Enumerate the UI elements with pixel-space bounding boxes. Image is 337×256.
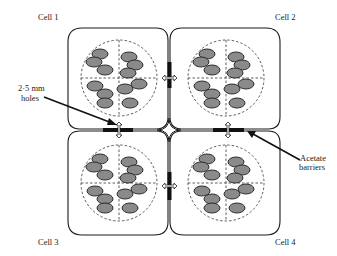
barriers-label-line2: barriers (299, 162, 325, 172)
cell-4-label: Cell 4 (275, 237, 296, 247)
holes-label-line1: 2·5 mm (18, 83, 45, 93)
cell-4-eggs (193, 154, 254, 213)
chamber-diagram: Cell 1 Cell 2 Cell 3 Cell 4 2·5 mm holes… (0, 0, 337, 256)
cell-1-label: Cell 1 (38, 12, 59, 22)
holes-label-line2: holes (21, 93, 39, 103)
cell-3-eggs (86, 154, 147, 213)
cell-2-eggs (193, 49, 254, 108)
cell-3-label: Cell 3 (38, 237, 59, 247)
cell-1 (68, 28, 168, 129)
cell-1-eggs (86, 49, 147, 108)
cell-2-outline (170, 28, 280, 129)
center-junction (157, 118, 181, 142)
barriers-pointer-line (253, 134, 300, 160)
cell-2 (170, 28, 280, 129)
barrier-top-vertical (168, 62, 172, 88)
cell-4 (170, 131, 280, 235)
holes-pointer-arrowhead (107, 118, 117, 125)
cell-2-label: Cell 2 (275, 12, 296, 22)
cell-1-outline (68, 28, 168, 129)
cell-3 (68, 131, 168, 235)
